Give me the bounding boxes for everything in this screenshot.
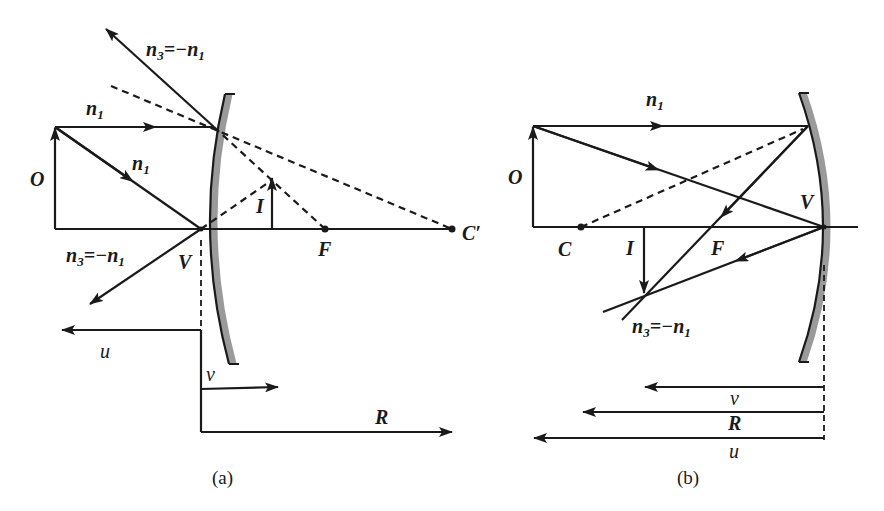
distance-u-label: u: [100, 340, 110, 362]
incident-diag-label: n1: [132, 152, 150, 177]
ray-direction-arrow: [741, 227, 824, 259]
incident-top-label: n1: [646, 88, 664, 113]
reflected-bot-label: n3=−n1: [66, 244, 125, 269]
panel-b-caption: (b): [677, 467, 699, 489]
dashed-center-line: [581, 129, 803, 227]
focus-point: [322, 226, 329, 233]
incident-top-label: n1: [86, 97, 104, 122]
center-label: C: [558, 238, 572, 260]
center-label: C′: [462, 222, 481, 244]
vertex-point: [822, 225, 827, 230]
panel-b: O I V F C n1 n3=−n1 v R u (b): [508, 88, 858, 489]
image-label: I: [255, 195, 265, 217]
center-point: [578, 224, 585, 231]
optics-diagram: O I V F C′ n1 n1 n3=−n1 n3=−n1 u v R (a): [0, 0, 884, 511]
ray-direction-arrow: [533, 126, 653, 168]
distance-v-label: v: [206, 363, 215, 385]
vertex-label: V: [178, 251, 193, 273]
distance-v-label: v: [730, 387, 739, 409]
distance-v-arrow: [201, 387, 278, 389]
center-point: [449, 226, 456, 233]
focus-label: F: [317, 238, 332, 260]
image-label: I: [625, 237, 635, 259]
dashed-to-center: [111, 86, 452, 229]
distance-u-label: u: [729, 440, 739, 462]
object-label: O: [508, 166, 522, 188]
reflected-top-label: n3=−n1: [146, 38, 205, 63]
vertex-point: [199, 227, 204, 232]
object-label: O: [30, 168, 44, 190]
panel-a: O I V F C′ n1 n1 n3=−n1 n3=−n1 u v R (a): [30, 29, 481, 489]
vertex-label: V: [800, 191, 815, 213]
reflected-label: n3=−n1: [632, 315, 691, 340]
dashed-to-focus: [214, 127, 325, 229]
ray-direction-arrow: [55, 127, 128, 178]
panel-a-caption: (a): [212, 467, 233, 489]
focus-label: F: [710, 237, 725, 259]
distance-R-label: R: [727, 412, 741, 434]
ray-direction-arrow: [725, 126, 808, 213]
distance-R-label: R: [374, 406, 388, 428]
